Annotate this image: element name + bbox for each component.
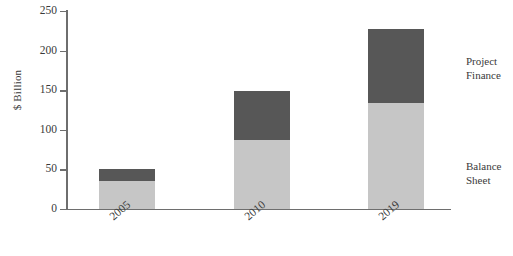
plot-area: 0 50 100 150 200 250 bbox=[66, 11, 452, 209]
bar-2019[interactable] bbox=[368, 29, 424, 209]
y-tick-mark bbox=[60, 130, 66, 131]
y-axis-title: $ Billion bbox=[11, 45, 23, 135]
y-tick-label: 150 bbox=[40, 84, 57, 96]
y-tick-label: 50 bbox=[46, 164, 58, 176]
y-tick-mark bbox=[60, 51, 66, 52]
legend-label-balance-sheet: Balance Sheet bbox=[466, 160, 501, 187]
y-tick-label: 250 bbox=[40, 5, 57, 17]
bar-segment-project-finance[interactable] bbox=[368, 29, 424, 103]
legend-project-line2: Finance bbox=[466, 69, 501, 83]
bar-segment-balance-sheet[interactable] bbox=[368, 103, 424, 209]
legend-project-line1: Project bbox=[466, 55, 501, 69]
bar-segment-balance-sheet[interactable] bbox=[234, 140, 290, 209]
legend-balance-line1: Balance bbox=[466, 160, 501, 174]
legend-balance-line2: Sheet bbox=[466, 174, 501, 188]
legend-label-project-finance: Project Finance bbox=[466, 55, 501, 82]
bar-segment-project-finance[interactable] bbox=[234, 91, 290, 140]
y-tick-label: 0 bbox=[51, 203, 57, 215]
bar-2010[interactable] bbox=[234, 91, 290, 209]
bar-chart: $ Billion 0 50 100 150 200 250 bbox=[0, 0, 513, 256]
y-tick-label: 200 bbox=[40, 45, 57, 57]
bar-segment-project-finance[interactable] bbox=[99, 169, 155, 181]
y-tick-label: 100 bbox=[40, 124, 57, 136]
y-tick-mark bbox=[60, 169, 66, 170]
y-tick-mark bbox=[60, 209, 66, 210]
y-tick-mark bbox=[60, 90, 66, 91]
y-tick-mark bbox=[60, 11, 66, 12]
